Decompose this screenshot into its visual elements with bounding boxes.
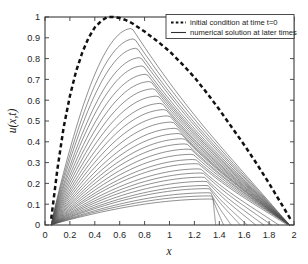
y-axis-label: u(x,t) — [6, 109, 19, 134]
solution-curve — [51, 199, 216, 225]
numerical-solution-curves — [51, 29, 290, 225]
y-tick-label: 0.1 — [27, 200, 40, 210]
y-tick-label: 0.8 — [27, 54, 40, 64]
legend-label-numerical-solution: numerical solution at later times — [190, 28, 297, 37]
x-axis-label: x — [165, 245, 172, 257]
x-tick-label: 0.2 — [64, 230, 77, 240]
x-tick-label: 0.6 — [113, 230, 126, 240]
y-tick-label: 0.5 — [27, 116, 40, 126]
x-tick-label: 0.4 — [88, 230, 101, 240]
y-tick-label: 0.4 — [27, 137, 40, 147]
plot-svg: 00.20.40.60.811.21.41.61.82 00.10.20.30.… — [0, 0, 308, 264]
y-tick-label: 0.7 — [27, 75, 40, 85]
y-tick-label: 0.9 — [27, 33, 40, 43]
y-tick-label: 0 — [35, 220, 40, 230]
solution-curve — [51, 103, 289, 225]
x-tick-label: 0.8 — [138, 230, 151, 240]
x-tick-label: 1.8 — [263, 230, 276, 240]
y-tick-label: 0.6 — [27, 96, 40, 106]
x-tick-label: 1.6 — [238, 230, 251, 240]
y-tick-label: 1 — [35, 12, 40, 22]
x-tick-label: 1 — [167, 230, 172, 240]
x-tick-label: 2 — [291, 230, 296, 240]
x-tick-label: 1.4 — [213, 230, 226, 240]
y-tick-label: 0.3 — [27, 158, 40, 168]
x-tick-label: 0 — [42, 230, 47, 240]
solution-curve — [51, 139, 289, 225]
figure-canvas: 00.20.40.60.811.21.41.61.82 00.10.20.30.… — [0, 0, 308, 264]
legend: initial condition at time t=0 numerical … — [166, 15, 297, 39]
y-tick-label: 0.2 — [27, 179, 40, 189]
solution-curve — [51, 110, 289, 225]
x-tick-label: 1.2 — [188, 230, 201, 240]
legend-label-initial-condition: initial condition at time t=0 — [190, 18, 278, 27]
